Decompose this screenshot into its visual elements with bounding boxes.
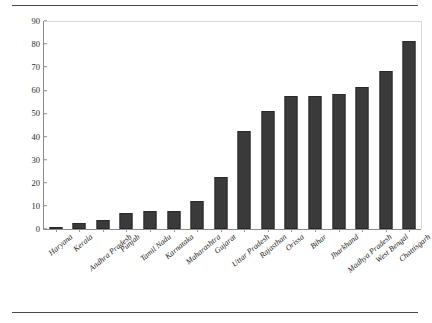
bar-slot — [327, 21, 351, 229]
bar-slot — [397, 21, 421, 229]
bar-uttar-pradesh[interactable] — [238, 131, 251, 229]
bar-slot — [374, 21, 398, 229]
y-axis-tick-label: 80 — [32, 39, 41, 49]
x-axis-label-slot: Kerala — [67, 231, 91, 311]
y-axis-tick-20: 20 — [32, 179, 45, 188]
y-axis-tick-80: 80 — [32, 40, 45, 49]
y-axis-tick-10: 10 — [32, 202, 45, 211]
y-axis-tick-label: 60 — [32, 85, 41, 95]
y-axis-tick-40: 40 — [32, 132, 45, 141]
x-axis-label-slot: Jharkhand — [326, 231, 350, 311]
x-axis-label-slot: Gujarat — [208, 231, 232, 311]
bar-slot — [350, 21, 374, 229]
bar-series — [44, 21, 421, 229]
bar-slot — [91, 21, 115, 229]
x-axis-label-slot: Bihar — [302, 231, 326, 311]
bar-madhya-pradesh[interactable] — [356, 87, 369, 229]
x-axis-label-slot: Uttar Pradesh — [232, 231, 256, 311]
bar-rajasthan[interactable] — [261, 111, 274, 229]
y-axis-tick-90: 90 — [32, 17, 45, 26]
bar-jharkhand[interactable] — [332, 94, 345, 229]
y-axis-tick-30: 30 — [32, 155, 45, 164]
y-axis-tick-70: 70 — [32, 63, 45, 72]
x-axis-label-slot: Madhya Pradesh — [349, 231, 373, 311]
x-axis-label-slot: Maharashtra — [184, 231, 208, 311]
x-axis-label-slot: Rajasthan — [255, 231, 279, 311]
x-axis-labels: HaryanaKeralaAndhra PradeshPunjabTamil N… — [43, 231, 420, 311]
bar-bihar[interactable] — [308, 96, 321, 229]
y-axis-tick-label: 40 — [32, 131, 41, 141]
bar-tamil-nadu[interactable] — [144, 211, 157, 229]
bar-slot — [44, 21, 68, 229]
bar-chart: 0102030405060708090 HaryanaKeralaAndhra … — [0, 12, 430, 312]
y-axis-tick-label: 70 — [32, 62, 41, 72]
x-axis-label-slot: Haryana — [43, 231, 67, 311]
y-axis-tick-50: 50 — [32, 109, 45, 118]
bar-karnataka[interactable] — [167, 211, 180, 229]
bar-punjab[interactable] — [120, 213, 133, 229]
bar-slot — [185, 21, 209, 229]
x-axis-label-slot: West Bengal — [373, 231, 397, 311]
bar-slot — [68, 21, 92, 229]
bar-gujarat[interactable] — [214, 177, 227, 229]
top-horizontal-rule — [12, 5, 418, 6]
bar-slot — [280, 21, 304, 229]
x-axis-label-slot: Karnataka — [161, 231, 185, 311]
y-axis-tick-label: 50 — [32, 108, 41, 118]
y-axis-tick-60: 60 — [32, 86, 45, 95]
bar-chattisgarh[interactable] — [403, 41, 416, 229]
x-axis-label-slot: Orissa — [279, 231, 303, 311]
x-axis-label-slot: Tamil Nadu — [137, 231, 161, 311]
bar-slot — [115, 21, 139, 229]
bar-slot — [138, 21, 162, 229]
y-axis-tick-label: 30 — [32, 154, 41, 164]
x-axis-label-chattisgarh: Chattisgarh — [398, 233, 432, 264]
bar-slot — [256, 21, 280, 229]
bar-orissa[interactable] — [285, 96, 298, 229]
bar-slot — [162, 21, 186, 229]
plot-area: 0102030405060708090 — [43, 21, 421, 230]
bar-slot — [303, 21, 327, 229]
y-axis-tick-label: 0 — [36, 224, 40, 234]
bar-slot — [233, 21, 257, 229]
bar-slot — [209, 21, 233, 229]
bar-maharashtra[interactable] — [191, 201, 204, 229]
bar-west-bengal[interactable] — [379, 71, 392, 229]
y-axis-tick-label: 20 — [32, 178, 41, 188]
x-axis-label-slot: Andhra Pradesh — [90, 231, 114, 311]
y-axis-tick-label: 10 — [32, 201, 41, 211]
y-axis-tick-label: 90 — [32, 16, 41, 26]
bar-andhra-pradesh[interactable] — [96, 220, 109, 229]
x-axis-label-slot: Punjab — [114, 231, 138, 311]
x-axis-label-slot: Chattisgarh — [396, 231, 420, 311]
bottom-horizontal-rule — [12, 312, 418, 313]
